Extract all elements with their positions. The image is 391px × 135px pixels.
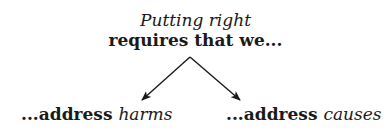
branch-address-harms: ...address harms (21, 104, 172, 124)
branch-emphasis: harms (118, 104, 172, 124)
branch-emphasis: causes (323, 104, 381, 124)
branch-prefix: ...address (226, 104, 323, 124)
branch-address-causes: ...address causes (226, 104, 382, 124)
left-arrow-icon (142, 57, 190, 100)
right-arrow-icon (190, 57, 240, 100)
branch-prefix: ...address (21, 104, 118, 124)
